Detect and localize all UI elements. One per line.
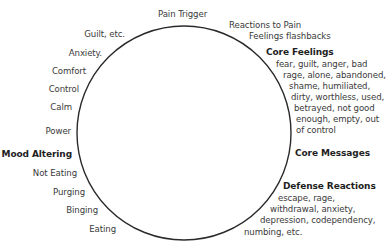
core-feelings-line-7: of control — [296, 125, 336, 136]
heading-mood-altering: Mood Altering — [2, 149, 72, 160]
label-feelings-flashbacks: Feelings flashbacks — [249, 31, 331, 42]
defense-line-2: withdrawal, anxiety, — [270, 204, 355, 215]
label-power: Power — [46, 126, 71, 137]
label-guilt: Guilt, etc. — [84, 29, 125, 40]
core-feelings-line-3: shame, humiliated, — [289, 81, 370, 92]
defense-line-4: numbing, etc. — [244, 227, 302, 238]
defense-line-3: depression, codependency, — [260, 215, 375, 226]
label-comfort: Comfort — [52, 66, 86, 77]
core-feelings-line-6: enough, empty, out — [296, 114, 379, 125]
heading-defense-reactions: Defense Reactions — [283, 181, 376, 192]
label-purging: Purging — [53, 187, 85, 198]
core-feelings-line-4: dirty, worthless, used, — [291, 92, 384, 103]
core-feelings-line-5: betrayed, not good — [294, 103, 375, 114]
label-anxiety: Anxiety. — [69, 48, 102, 59]
label-reactions-to-pain: Reactions to Pain — [229, 20, 301, 31]
label-binging: Binging — [66, 205, 98, 216]
label-pain-trigger: Pain Trigger — [158, 9, 207, 20]
label-control: Control — [49, 84, 79, 95]
core-feelings-line-1: fear, guilt, anger, bad — [276, 59, 367, 70]
label-not-eating: Not Eating — [33, 168, 77, 179]
label-calm: Calm — [50, 102, 72, 113]
heading-core-messages: Core Messages — [295, 148, 370, 159]
heading-core-feelings: Core Feelings — [266, 47, 334, 58]
label-eating: Eating — [89, 224, 116, 235]
core-feelings-line-2: rage, alone, abandoned, — [283, 70, 386, 81]
defense-line-1: escape, rage, — [278, 193, 335, 204]
